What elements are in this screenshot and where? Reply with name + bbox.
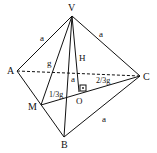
label-MO: 1/3g — [49, 90, 63, 99]
edge-VA — [17, 16, 72, 71]
label-side-a: a — [71, 74, 75, 84]
label-A: A — [7, 65, 15, 76]
label-edge-VC: a — [99, 29, 103, 39]
edge-AC-hidden — [17, 71, 140, 76]
edge-BC — [64, 76, 140, 137]
label-M: M — [28, 101, 37, 112]
label-apothem-g: g — [47, 58, 52, 68]
label-edge-VA: a — [40, 33, 44, 43]
right-angle-dot — [82, 87, 84, 89]
label-O: O — [76, 96, 83, 106]
label-height-H: H — [79, 53, 86, 63]
label-OC: 2/3g — [96, 76, 110, 85]
edge-AB — [17, 71, 64, 137]
label-V: V — [68, 2, 76, 13]
label-C: C — [143, 71, 150, 82]
label-B: B — [61, 139, 68, 150]
tetrahedron-diagram: V A C B M O a a a a g H 1/3g 2/3g — [0, 0, 157, 153]
label-edge-BC: a — [102, 114, 106, 124]
edge-VC — [72, 16, 140, 76]
